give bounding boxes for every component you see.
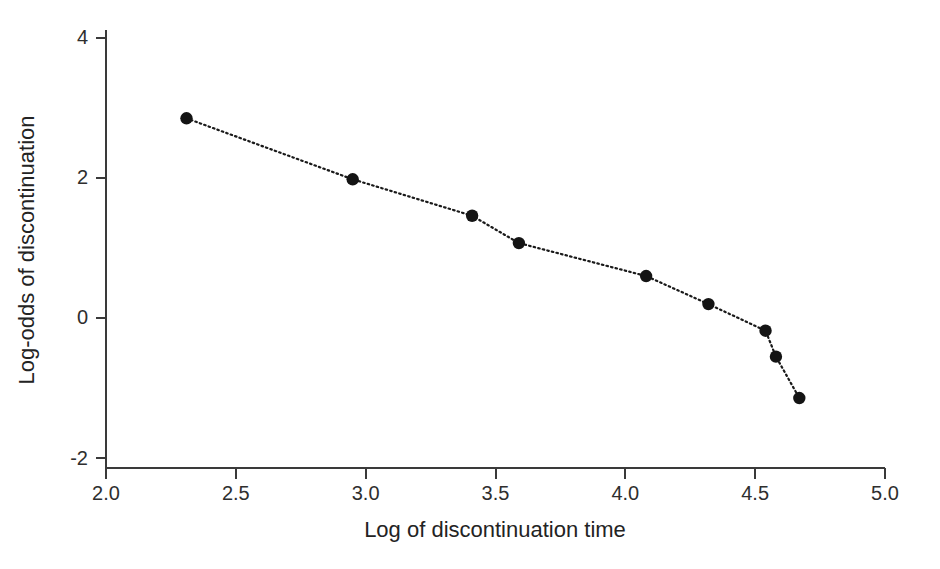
x-axis-ticks: 2.02.53.03.54.04.55.0 [92,468,899,504]
x-tick-label: 3.0 [352,482,380,504]
y-axis-title: Log-odds of discontinuation [14,115,39,384]
data-point-marker [702,298,714,310]
x-tick-label: 5.0 [871,482,899,504]
y-tick-label: 2 [77,166,88,188]
data-point-marker [793,392,805,404]
data-point-marker [466,210,478,222]
chart-figure: -2024 2.02.53.03.54.04.55.0 Log of disco… [0,0,940,569]
line-chart-canvas: -2024 2.02.53.03.54.04.55.0 Log of disco… [0,0,940,569]
y-tick-label: 4 [77,26,88,48]
data-point-marker [759,325,771,337]
data-point-marker [640,270,652,282]
x-tick-label: 4.5 [741,482,769,504]
x-tick-label: 2.0 [92,482,120,504]
data-point-marker [770,350,782,362]
y-tick-label: -2 [70,447,88,469]
data-point-marker [513,237,525,249]
x-tick-label: 3.5 [482,482,510,504]
y-axis-ticks: -2024 [70,26,106,469]
series-line-log-odds [187,118,800,398]
x-tick-label: 2.5 [222,482,250,504]
data-point-marker [346,173,358,185]
series-markers-log-odds [180,112,805,404]
data-point-marker [180,112,192,124]
x-axis-title: Log of discontinuation time [364,517,626,542]
x-tick-label: 4.0 [611,482,639,504]
y-tick-label: 0 [77,306,88,328]
